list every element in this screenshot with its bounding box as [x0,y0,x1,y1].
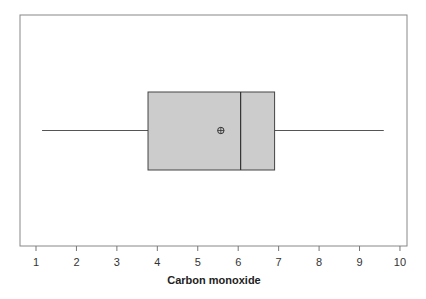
x-tick-label: 7 [276,256,282,268]
x-tick-label: 5 [195,256,201,268]
x-axis: 12345678910 [33,246,406,268]
boxplot-chart: 12345678910 Carbon monoxide [0,0,426,299]
x-tick-label: 1 [33,256,39,268]
x-axis-title: Carbon monoxide [167,274,261,286]
x-tick-label: 6 [235,256,241,268]
x-tick-label: 3 [114,256,120,268]
x-tick-label: 8 [316,256,322,268]
x-tick-label: 9 [356,256,362,268]
x-tick-label: 2 [73,256,79,268]
x-tick-label: 4 [154,256,160,268]
iqr-box [148,92,275,170]
x-tick-label: 10 [394,256,406,268]
